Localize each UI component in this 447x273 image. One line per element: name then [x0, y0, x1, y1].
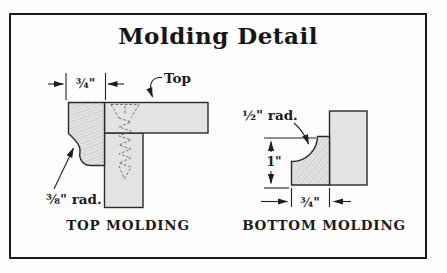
bottom-molding-diagram: ½" rad. 1" ¾" BOTTOM MOLDING	[242, 107, 406, 233]
molding-detail-page: Molding Detail	[0, 0, 447, 273]
cabinet-side-board	[330, 111, 368, 185]
top-board-label: Top	[164, 70, 191, 86]
bottom-molding-caption: BOTTOM MOLDING	[242, 217, 406, 233]
top-board	[105, 103, 209, 134]
top-molding-radius-label: ⅜" rad.	[46, 191, 102, 207]
bottom-molding-radius-leader-arrow	[294, 123, 309, 144]
bottom-molding-width-label: ¾"	[300, 195, 320, 210]
top-molding-width-label: ¾"	[76, 76, 96, 91]
top-molding-radius-leader-arrow	[54, 148, 74, 189]
bottom-molding-profile	[292, 137, 330, 186]
top-board-leader-arrow	[151, 77, 162, 97]
top-molding-width-dimension: ¾"	[48, 73, 124, 100]
top-molding-profile	[69, 103, 105, 166]
bottom-molding-height-label: 1"	[266, 154, 281, 169]
top-molding-caption: TOP MOLDING	[66, 217, 190, 233]
molding-diagram-canvas: ¾" Top ⅜" rad. TOP MOLDING ½" rad.	[0, 0, 447, 273]
bottom-molding-width-dimension: ¾"	[261, 188, 351, 210]
vertical-board	[105, 133, 144, 208]
top-molding-diagram: ¾" Top ⅜" rad. TOP MOLDING	[46, 70, 208, 233]
bottom-molding-radius-label: ½" rad.	[242, 107, 298, 123]
